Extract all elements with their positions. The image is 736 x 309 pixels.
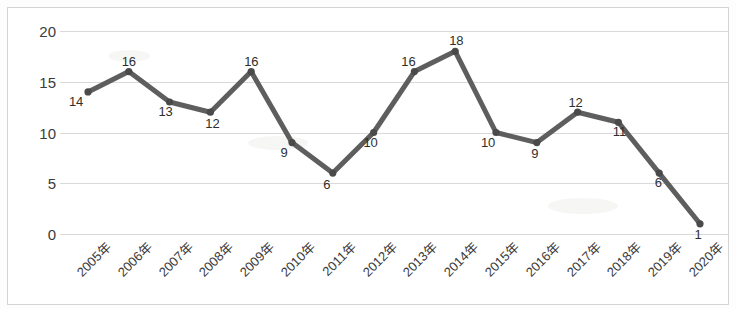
data-point-label: 16 [401,55,415,68]
y-axis-tick-label: 10 [22,125,56,140]
x-axis-tick-label: 2010年 [278,240,317,279]
x-axis-tick-label: 2020年 [686,240,725,279]
data-point-label: 9 [531,147,538,160]
data-point-label: 18 [449,34,463,47]
data-point-label: 9 [280,146,287,159]
gridline [60,234,728,235]
data-point-label: 10 [364,136,378,149]
x-axis: 2005年2006年2007年2008年2009年2010年2011年2012年… [60,236,728,308]
data-point [248,68,255,75]
data-point-label: 16 [122,55,136,68]
x-axis-tick-label: 2008年 [197,240,236,279]
x-axis-tick-label: 2007年 [156,240,195,279]
data-point-label: 11 [613,125,626,138]
x-axis-tick-label: 2013年 [401,240,440,279]
data-point [329,170,336,177]
data-point-label: 10 [481,136,495,149]
y-axis-tick-label: 15 [22,74,56,89]
y-axis-tick-label: 0 [22,227,56,242]
data-point [288,139,295,146]
line-series [60,31,728,234]
x-axis-tick-label: 2017年 [564,240,603,279]
series-line [88,51,700,224]
x-axis-tick-label: 2015年 [482,240,521,279]
data-point-label: 16 [244,55,258,68]
x-axis-tick-label: 2019年 [646,240,685,279]
data-point-label: 6 [655,176,662,189]
data-point [84,88,91,95]
y-axis-tick-label: 20 [22,24,56,39]
x-axis-tick-label: 2016年 [523,240,562,279]
x-axis-tick-label: 2005年 [74,240,113,279]
data-point-label: 6 [323,178,330,191]
data-point-label: 14 [69,95,83,108]
series-markers [84,48,703,228]
y-axis: 05101520 [18,31,56,234]
x-axis-tick-label: 2006年 [115,240,154,279]
x-axis-tick-label: 2014年 [442,240,481,279]
chart-frame: 05101520 141613121696101618109121161 200… [7,7,729,305]
data-point [452,48,459,55]
plot-area: 141613121696101618109121161 [60,31,728,234]
x-axis-tick-label: 2018年 [605,240,644,279]
data-point-label: 12 [205,117,219,130]
x-axis-tick-label: 2012年 [360,240,399,279]
data-point [411,68,418,75]
x-axis-tick-label: 2011年 [320,240,358,278]
data-point [125,68,132,75]
data-point [207,109,214,116]
y-axis-tick-label: 5 [22,176,56,191]
data-point-label: 12 [569,96,583,109]
chart-screenshot: 05101520 141613121696101618109121161 200… [0,0,736,309]
x-axis-tick-label: 2009年 [238,240,277,279]
data-point-label: 13 [159,105,173,118]
